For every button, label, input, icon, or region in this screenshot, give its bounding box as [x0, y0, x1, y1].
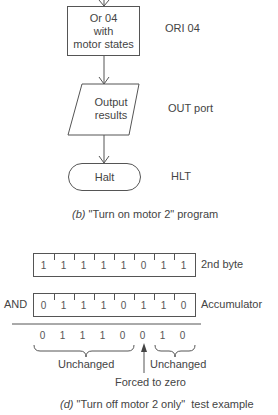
bit: 0 — [114, 294, 133, 316]
halt-label: Halt — [95, 171, 115, 184]
io-label: Output results — [84, 96, 138, 122]
instruction-ori: ORI 04 — [165, 22, 200, 34]
bit: 1 — [114, 254, 133, 276]
result-bit: 0 — [133, 325, 152, 345]
bit-divider — [114, 254, 115, 260]
forced-to-zero-label: Forced to zero — [115, 376, 186, 388]
bit-divider — [114, 294, 115, 300]
result-bit: 1 — [73, 325, 92, 345]
process-line-3: motor states — [73, 38, 134, 51]
bit-divider — [174, 254, 175, 260]
process-line-2: with — [73, 25, 134, 38]
bit-divider — [94, 254, 95, 260]
process-box: Or 04 with motor states — [67, 6, 140, 56]
bit: 1 — [74, 294, 93, 316]
label-2nd-byte: 2nd byte — [201, 258, 243, 270]
bit: 1 — [54, 294, 73, 316]
register-accumulator: 0 1 1 1 0 1 1 0 — [33, 293, 196, 317]
unchanged-right-label: Unchanged — [150, 358, 206, 370]
bit: 1 — [94, 254, 113, 276]
result-bit: 0 — [173, 325, 192, 345]
bit-divider — [154, 254, 155, 260]
label-accumulator: Accumulator — [201, 298, 262, 310]
bit: 0 — [134, 254, 153, 276]
halt-terminal: Halt — [68, 163, 141, 191]
result-bit: 0 — [33, 325, 52, 345]
bit: 0 — [34, 294, 53, 316]
caption-b: (b) "Turn on motor 2" program — [72, 208, 218, 220]
bit-divider — [54, 254, 55, 260]
bit-divider — [94, 294, 95, 300]
unchanged-left-label: Unchanged — [58, 358, 114, 370]
result-bit: 0 — [113, 325, 132, 345]
result-bit: 1 — [153, 325, 172, 345]
process-line-1: Or 04 — [73, 12, 134, 25]
bit: 1 — [94, 294, 113, 316]
bit: 0 — [174, 294, 193, 316]
bit: 1 — [74, 254, 93, 276]
io-line-1: Output — [84, 96, 138, 109]
bit-divider — [74, 254, 75, 260]
instruction-hlt: HLT — [171, 170, 191, 182]
bit: 1 — [34, 254, 53, 276]
bit-divider — [134, 294, 135, 300]
bit: 1 — [154, 254, 173, 276]
bit-divider — [134, 254, 135, 260]
bit: 1 — [134, 294, 153, 316]
result-bit: 1 — [53, 325, 72, 345]
and-operator: AND — [4, 298, 27, 310]
bit-divider — [154, 294, 155, 300]
result-bits: 0 1 1 1 0 0 1 0 — [33, 325, 194, 345]
bit-divider — [174, 294, 175, 300]
bit-divider — [54, 294, 55, 300]
register-2nd-byte: 1 1 1 1 1 0 1 1 — [33, 253, 196, 277]
result-bit: 1 — [93, 325, 112, 345]
instruction-out: OUT port — [168, 102, 213, 114]
bit: 1 — [174, 254, 193, 276]
io-line-2: results — [84, 109, 138, 122]
bit-divider — [74, 294, 75, 300]
caption-d: (d) "Turn off motor 2 only" test example — [60, 398, 254, 410]
bit: 1 — [54, 254, 73, 276]
bit: 1 — [154, 294, 173, 316]
